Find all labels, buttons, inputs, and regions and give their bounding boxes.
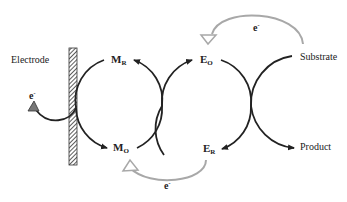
electrode-label: Electrode — [11, 54, 49, 66]
electron-top-label: e- — [253, 20, 259, 33]
mediator-reduced-label: MR — [111, 53, 126, 69]
diagram-graphics — [0, 0, 347, 202]
enzyme-reduced-label: ER — [203, 142, 215, 158]
hollow-arrowhead-icon — [123, 160, 138, 171]
electrode-arrowhead-icon — [28, 101, 39, 111]
mediator-oxidized-label: MO — [113, 141, 129, 157]
product-label: Product — [300, 141, 331, 153]
enzyme-cycle — [156, 60, 252, 155]
mediator-cycle — [75, 60, 162, 148]
top-electron-arrow — [201, 15, 303, 44]
substrate-label: Substrate — [300, 51, 337, 63]
enzyme-oxidized-label: EO — [200, 53, 213, 69]
hollow-arrowhead-icon — [201, 35, 216, 44]
mediated-electron-transfer-diagram: Electrode Substrate Product MR MO EO ER … — [0, 0, 347, 202]
substrate-product-arc — [251, 56, 294, 148]
electron-bottom-label: e- — [164, 178, 170, 191]
electron-electrode-label: e- — [29, 88, 35, 101]
